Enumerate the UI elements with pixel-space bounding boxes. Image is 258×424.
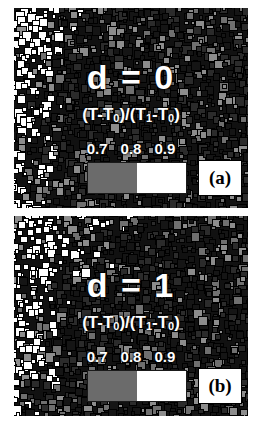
colorbar-segment — [88, 371, 137, 401]
d-value-label-b: d = 1 — [14, 268, 248, 302]
panel-label-a: (a) — [198, 160, 242, 196]
formula-part-mid2-a: -T — [152, 105, 168, 124]
colorbar-a — [87, 162, 187, 194]
formula-part-prefix-b: (T-T — [82, 313, 113, 332]
formula-part-suffix-b: ) — [174, 313, 180, 332]
panel-b: d = 1 (T-T0)/(T1-T0) 0.7 0.8 0.9 (b) — [14, 216, 248, 416]
colorbar-segment — [88, 163, 137, 193]
formula-part-suffix-a: ) — [174, 105, 180, 124]
colorbar-tick: 0.8 — [121, 141, 142, 157]
normalized-temperature-formula-a: (T-T0)/(T1-T0) — [14, 106, 248, 127]
d-value-label-a: d = 0 — [14, 60, 248, 94]
panel-a-overlay: d = 0 (T-T0)/(T1-T0) 0.7 0.8 0.9 (a) — [14, 8, 248, 208]
figure-container: d = 0 (T-T0)/(T1-T0) 0.7 0.8 0.9 (a) d =… — [0, 0, 258, 424]
panel-a: d = 0 (T-T0)/(T1-T0) 0.7 0.8 0.9 (a) — [14, 8, 248, 208]
colorbar-tick: 0.7 — [87, 141, 108, 157]
formula-part-mid-a: )/(T — [119, 105, 145, 124]
colorbar-tick: 0.8 — [121, 349, 142, 365]
colorbar-ticks-b: 0.7 0.8 0.9 — [14, 349, 248, 365]
colorbar-tick: 0.9 — [154, 349, 175, 365]
normalized-temperature-formula-b: (T-T0)/(T1-T0) — [14, 314, 248, 335]
colorbar-segment — [137, 163, 186, 193]
formula-part-prefix-a: (T-T — [82, 105, 113, 124]
colorbar-b — [87, 370, 187, 402]
formula-part-mid-b: )/(T — [119, 313, 145, 332]
colorbar-segment — [137, 371, 186, 401]
colorbar-tick: 0.9 — [154, 141, 175, 157]
formula-part-mid2-b: -T — [152, 313, 168, 332]
colorbar-tick: 0.7 — [87, 349, 108, 365]
panel-b-overlay: d = 1 (T-T0)/(T1-T0) 0.7 0.8 0.9 (b) — [14, 216, 248, 416]
colorbar-ticks-a: 0.7 0.8 0.9 — [14, 141, 248, 157]
panel-label-b: (b) — [198, 368, 242, 404]
